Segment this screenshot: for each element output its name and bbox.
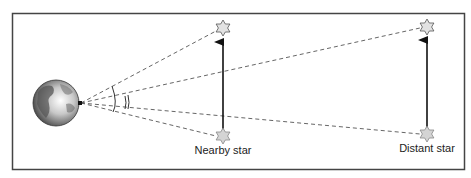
parallax-diagram: Nearby star Distant star — [0, 0, 471, 178]
nearby-star-label: Nearby star — [195, 144, 252, 156]
distant-star-label: Distant star — [399, 142, 455, 154]
